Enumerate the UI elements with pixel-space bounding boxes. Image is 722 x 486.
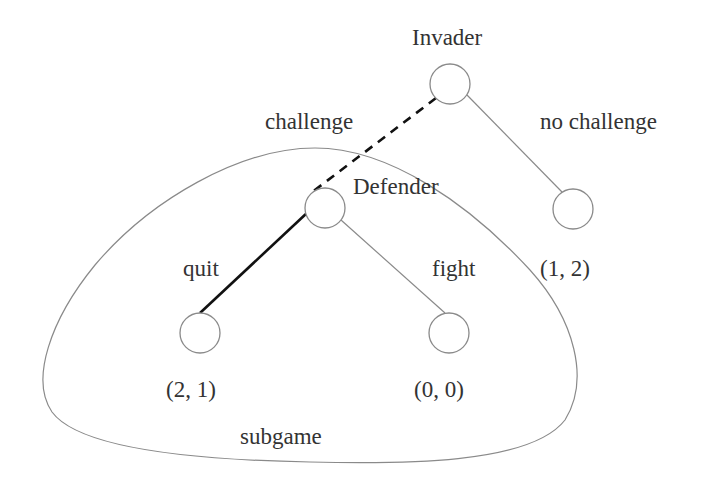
invader-node [430,64,470,104]
payoff-quit: (2, 1) [166,378,216,401]
quit-leaf-node [180,313,220,353]
no-challenge-action-label: no challenge [540,110,657,133]
defender-label: Defender [353,175,439,198]
subgame-label: subgame [240,425,322,448]
quit-action-label: quit [183,257,219,280]
payoff-fight: (0, 0) [414,378,464,401]
defender-node [305,188,345,228]
no-challenge-leaf-node [553,189,593,229]
fight-action-label: fight [432,257,475,280]
payoff-no-challenge: (1, 2) [540,257,590,280]
invader-label: Invader [412,26,482,49]
edge-fight [341,220,445,313]
challenge-action-label: challenge [265,110,353,133]
game-tree-diagram [0,0,722,486]
fight-leaf-node [429,313,469,353]
